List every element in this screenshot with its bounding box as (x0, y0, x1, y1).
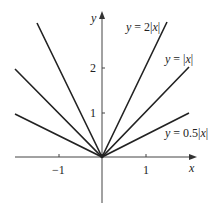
y-tick-label-2: 2 (90, 61, 96, 75)
curve-label-abs-x-end: | (191, 52, 193, 66)
curve-label-half-abs-x-eq: = 0.5| (170, 126, 200, 140)
x-axis-arrow-icon (189, 154, 197, 160)
curve-label-half-abs-x-end: | (206, 126, 208, 140)
curve-label-half-abs-x: y = 0.5|x| (164, 126, 208, 140)
curve-label-2abs-x: y = 2|x| (125, 20, 160, 34)
x-tick-label-1: 1 (143, 163, 149, 177)
y-tick-label-1: 1 (90, 106, 96, 120)
curve-label-2abs-x-end: | (158, 20, 160, 34)
axes (15, 11, 197, 203)
x-tick-label-minus1: −1 (52, 163, 65, 177)
absolute-value-chart: −1 1 1 2 x y y = 2|x| y = |x| y = 0.5|x| (0, 0, 215, 211)
curve-label-abs-x-eq: = | (170, 52, 185, 66)
origin-point (100, 154, 104, 158)
y-axis-label: y (90, 11, 97, 25)
y-axis-arrow-icon (99, 11, 105, 19)
curve-label-2abs-x-eq: = 2| (131, 20, 152, 34)
x-axis-label: x (188, 161, 195, 175)
curve-label-abs-x: y = |x| (164, 52, 193, 66)
